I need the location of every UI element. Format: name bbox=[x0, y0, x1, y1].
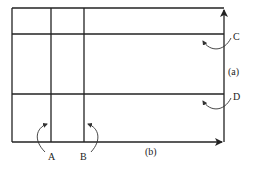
label-arrow-b: (b) bbox=[145, 146, 157, 158]
label-d: D bbox=[233, 91, 240, 102]
rotation-arrow-a-icon bbox=[37, 124, 47, 152]
grid-diagram: A B C D (a) (b) bbox=[0, 0, 254, 169]
rotation-arrow-c-icon bbox=[203, 38, 231, 49]
label-b: B bbox=[80, 151, 87, 162]
label-arrow-a: (a) bbox=[228, 66, 239, 78]
label-a: A bbox=[48, 151, 56, 162]
rotation-arrow-b-icon bbox=[88, 124, 98, 152]
rotation-arrow-d-icon bbox=[203, 98, 231, 109]
label-c: C bbox=[233, 31, 240, 42]
